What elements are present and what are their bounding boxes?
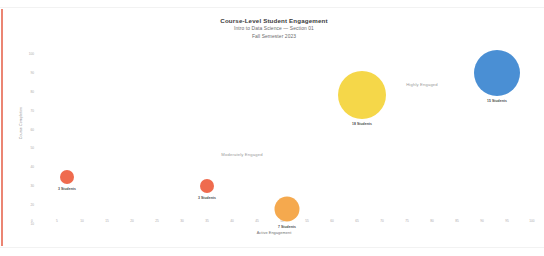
bubble-circle[interactable]: [338, 71, 386, 119]
bubble-medium[interactable]: 7 Students: [275, 196, 300, 221]
bubble-low-2[interactable]: 3 Students: [200, 179, 214, 193]
bubble-high[interactable]: 18 Students: [338, 71, 386, 119]
chart-subtitle: Intro to Data Science — Section 01: [10, 25, 538, 33]
chart-page: Course-Level Student Engagement Intro to…: [0, 0, 544, 256]
x-axis-title: Active Engagement: [10, 231, 538, 235]
chart-header: Course-Level Student Engagement Intro to…: [10, 17, 538, 40]
bubble-circle[interactable]: [60, 170, 74, 184]
bubble-low-1[interactable]: 3 Students: [60, 170, 74, 184]
chart-title: Course-Level Student Engagement: [10, 17, 538, 25]
bubble-circle[interactable]: [275, 196, 300, 221]
zone-highly-engaged: Highly Engaged: [406, 82, 438, 87]
bubble-highest[interactable]: 15 Students: [474, 50, 520, 96]
chart-frame: Course-Level Student Engagement Intro to…: [10, 9, 538, 245]
page-margin-top-rule: [0, 7, 544, 8]
bubble-circle[interactable]: [474, 50, 520, 96]
zone-moderately-engaged: Moderately Engaged: [221, 151, 262, 156]
bubble-label: 15 Students: [487, 99, 507, 103]
left-accent-bar: [1, 9, 3, 246]
page-margin-bottom-rule: [0, 247, 544, 248]
bubble-label: 7 Students: [278, 224, 296, 228]
plot-area: Moderately EngagedHighly Engaged3 Studen…: [32, 45, 532, 223]
bubble-label: 3 Students: [58, 187, 76, 191]
bubble-label: 18 Students: [352, 122, 372, 126]
bubble-label: 3 Students: [198, 196, 216, 200]
chart-subtitle-secondary: Fall Semester 2023: [10, 33, 538, 41]
bubble-circle[interactable]: [200, 179, 214, 193]
